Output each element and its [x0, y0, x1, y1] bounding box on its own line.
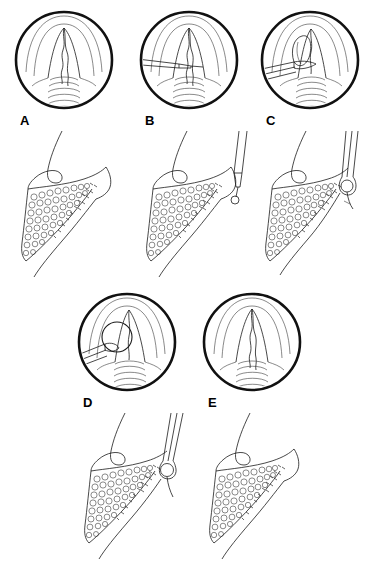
panel-e-sagittal-view	[198, 413, 318, 563]
panel-label-c: C	[266, 114, 275, 127]
panel-d-inset-laryngoscopic-view	[71, 288, 183, 396]
panel-b-inset-laryngoscopic-view	[133, 6, 245, 114]
panel-c-inset-laryngoscopic-view	[254, 6, 366, 114]
panel-c-instrument-forceps	[339, 131, 358, 209]
panel-a-sagittal-view	[10, 131, 130, 286]
panel-label-e: E	[208, 396, 217, 409]
panel-a: A	[8, 6, 120, 114]
panel-d-sagittal-view	[73, 413, 198, 563]
panel-e-inset-laryngoscopic-view	[196, 288, 308, 396]
panel-label-b: B	[145, 114, 154, 127]
panel-a-inset-laryngoscopic-view	[8, 6, 120, 114]
panel-d-instrument-forceps	[159, 413, 183, 497]
panel-label-d: D	[83, 396, 92, 409]
panel-e: E	[196, 288, 308, 396]
panel-b: B	[133, 6, 245, 114]
panel-d: D	[71, 288, 183, 396]
panel-b-sagittal-view	[135, 131, 260, 286]
panel-b-instrument-needle	[231, 131, 247, 204]
panel-label-a: A	[20, 114, 29, 127]
panel-c: C	[254, 6, 366, 114]
panel-c-sagittal-view	[254, 131, 366, 286]
